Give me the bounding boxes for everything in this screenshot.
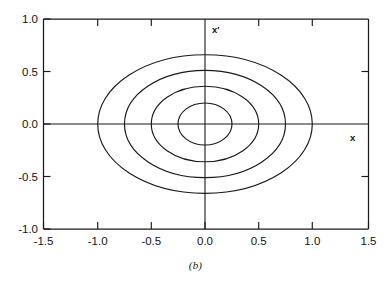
y-tick-label--1.0: -1.0 xyxy=(18,223,38,235)
y-tick-label--0.5: -0.5 xyxy=(18,171,38,183)
x-tick-label--1.0: -1.0 xyxy=(88,235,108,247)
figure-caption: (b) xyxy=(0,259,391,271)
y-axis-ticks xyxy=(44,19,51,229)
y-tick-label-1.0: 1.0 xyxy=(22,13,38,25)
phase-space-plot: -1.5 -1.0 -0.5 0.0 0.5 1.0 1.5 1.0 0.5 0… xyxy=(0,0,391,283)
axis-annotations: x' x xyxy=(212,24,356,143)
x-tick-label-1.0: 1.0 xyxy=(304,235,320,247)
figure-panel: -1.5 -1.0 -0.5 0.0 0.5 1.0 1.5 1.0 0.5 0… xyxy=(0,0,391,283)
x-axis-label: x xyxy=(350,132,356,143)
y-tick-label-0.0: 0.0 xyxy=(22,118,38,130)
y-tick-label-0.5: 0.5 xyxy=(22,66,38,78)
x-tick-label-0.0: 0.0 xyxy=(197,235,213,247)
xprime-axis-label: x' xyxy=(212,24,220,35)
x-tick-label-1.5: 1.5 xyxy=(361,235,377,247)
x-tick-label--1.5: -1.5 xyxy=(34,235,54,247)
origin-axes xyxy=(44,19,369,229)
y-tick-labels: 1.0 0.5 0.0 -0.5 -1.0 xyxy=(18,13,38,235)
x-tick-label--0.5: -0.5 xyxy=(141,235,161,247)
x-tick-labels: -1.5 -1.0 -0.5 0.0 0.5 1.0 1.5 xyxy=(34,235,377,247)
x-tick-label-0.5: 0.5 xyxy=(251,235,267,247)
x-axis-ticks xyxy=(44,222,369,229)
